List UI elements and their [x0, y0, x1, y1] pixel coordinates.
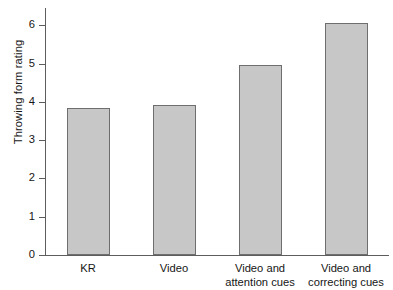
- y-axis-tick: [39, 140, 45, 141]
- y-axis-tick-label: 6: [5, 19, 35, 30]
- y-axis-tick: [39, 255, 45, 256]
- x-axis-line: [45, 255, 389, 256]
- bar: [153, 105, 196, 255]
- y-axis-tick-label: 2: [5, 172, 35, 183]
- y-axis-tick: [39, 102, 45, 103]
- bar-chart: Throwing form rating 0123456 KRVideoVide…: [0, 0, 393, 290]
- y-axis-tick: [39, 217, 45, 218]
- y-axis-tick-label: 1: [5, 211, 35, 222]
- bar: [325, 23, 368, 255]
- y-axis-tick: [39, 178, 45, 179]
- y-axis-line: [45, 8, 46, 256]
- y-axis-tick-label: 3: [5, 134, 35, 145]
- y-axis-tick: [39, 25, 45, 26]
- y-axis-tick-label: 5: [5, 58, 35, 69]
- x-axis-label: Video and correcting cues: [291, 262, 393, 289]
- y-axis-tick: [39, 64, 45, 65]
- y-axis-tick-label: 0: [5, 249, 35, 260]
- bar: [67, 108, 110, 255]
- bar: [239, 65, 282, 255]
- y-axis-tick-label: 4: [5, 96, 35, 107]
